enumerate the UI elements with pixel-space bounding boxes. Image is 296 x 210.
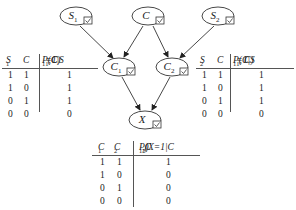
cpt-x-col3: P(X=1|C1,C2) <box>139 141 146 157</box>
table-row: 100 <box>92 169 200 182</box>
cpt-x-divider <box>133 141 134 207</box>
cpt-c1-col1: S1 <box>6 54 9 70</box>
table-row: 011 <box>2 95 98 108</box>
edge-c-c2 <box>153 26 168 57</box>
table-row: 111 <box>2 69 98 82</box>
cpt-x: C1 C2 P(X=1|C1,C2) 111 100 010 000 <box>92 141 200 208</box>
table-row: 111 <box>92 156 200 169</box>
table-row: 111 <box>196 69 294 82</box>
table-row: 101 <box>2 82 98 95</box>
node-label-c1: C1 <box>101 61 131 77</box>
node-label-s1: S1 <box>58 10 88 26</box>
cpt-x-col2: C2 <box>114 141 117 157</box>
table-row: 000 <box>2 108 98 121</box>
cpt-c2-col3: P(C1=1|S1, C) <box>233 54 240 70</box>
cpt-c1-col3: P(C1=1|S1,C) <box>42 54 49 70</box>
table-row: 000 <box>196 108 294 121</box>
node-label-c: C <box>131 10 161 21</box>
edge-c1-x <box>122 77 140 110</box>
cpt-c1-divider <box>39 54 40 112</box>
edge-c2-x <box>152 77 170 110</box>
cpt-c2-divider <box>230 54 231 112</box>
node-label-x: X <box>127 114 157 125</box>
node-label-s2: S2 <box>200 10 230 26</box>
table-row: 000 <box>92 195 200 208</box>
table-row: 011 <box>196 95 294 108</box>
cpt-x-header: C1 C2 P(X=1|C1,C2) <box>92 141 200 156</box>
cpt-c1-col2: C <box>23 54 29 67</box>
cpt-c2-col1: S2 <box>200 54 203 70</box>
node-label-c2: C2 <box>154 61 184 77</box>
cpt-c2-header: S2 C P(C1=1|S1, C) <box>196 54 294 69</box>
cpt-c2-col2: C <box>217 54 223 67</box>
table-row: 010 <box>92 182 200 195</box>
cpt-c1-header: S1 C P(C1=1|S1,C) <box>2 54 98 69</box>
edge-c-c1 <box>124 26 143 57</box>
cpt-c1: S1 C P(C1=1|S1,C) 111 101 011 000 <box>2 54 98 121</box>
table-row: 101 <box>196 82 294 95</box>
cpt-x-col1: C1 <box>98 141 101 157</box>
cpt-c2: S2 C P(C1=1|S1, C) 111 101 011 000 <box>196 54 294 121</box>
